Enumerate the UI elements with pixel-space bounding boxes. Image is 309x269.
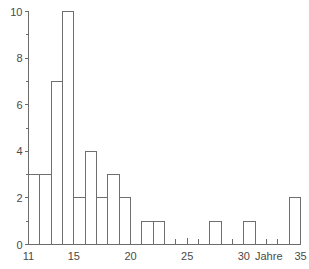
histogram-chart: 0246810111520253035Jahre <box>0 0 309 269</box>
x-tick-label: 25 <box>181 250 193 262</box>
chart-canvas: 0246810111520253035Jahre <box>0 0 309 269</box>
x-tick-label: 35 <box>294 250 306 262</box>
y-tick-label: 0 <box>16 239 22 251</box>
histogram-bar-outline <box>210 221 221 244</box>
histogram-bar-outline <box>289 198 300 245</box>
axes-group <box>25 12 301 245</box>
x-tick-label: 15 <box>68 250 80 262</box>
x-tick-label: 11 <box>23 250 34 262</box>
axis-labels-group: 0246810111520253035Jahre <box>10 6 306 262</box>
bars-group <box>29 12 301 245</box>
y-tick-label: 4 <box>16 145 22 157</box>
x-tick-label: 30 <box>238 250 250 262</box>
x-tick-label: 20 <box>124 250 136 262</box>
y-tick-label: 8 <box>16 52 22 64</box>
y-tick-label: 6 <box>16 99 22 111</box>
y-tick-label: 2 <box>16 192 22 204</box>
histogram-bar-outline <box>29 12 131 245</box>
histogram-bar-outline <box>244 221 255 244</box>
y-tick-label: 10 <box>10 6 22 18</box>
x-axis-title: Jahre <box>255 250 283 262</box>
